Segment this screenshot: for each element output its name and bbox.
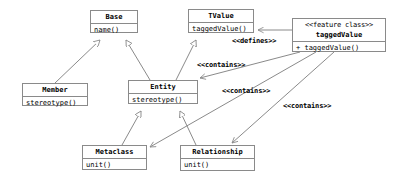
class-header-taggedvalue: <<feature class>> taggedValue (293, 19, 385, 42)
edge-member-to-base (55, 40, 100, 83)
edge-label-contains-3: <<contains>> (283, 102, 331, 111)
class-box-metaclass[interactable]: Metaclass unit() (82, 145, 147, 170)
class-box-relationship[interactable]: Relationship unit() (180, 145, 255, 171)
class-name-relationship: Relationship (181, 146, 254, 159)
edge-entity-to-base (126, 40, 150, 80)
class-member-base-0: name() (91, 24, 137, 36)
class-box-tvalue[interactable]: TValue taggedValue() (188, 9, 254, 33)
uml-class-diagram: Base name() TValue taggedValue() <<featu… (0, 0, 393, 180)
class-box-entity[interactable]: Entity stereotype() (128, 80, 198, 104)
class-member-metaclass-0: unit() (83, 159, 146, 171)
edge-label-defines: <<defines>> (232, 37, 276, 46)
class-name-entity: Entity (129, 81, 197, 94)
class-member-member-0: stereotype() (23, 97, 87, 109)
class-member-entity-0: stereotype() (129, 94, 197, 106)
class-box-member[interactable]: Member stereotype() (22, 83, 88, 106)
edge-metaclass-to-entity (122, 111, 141, 145)
class-name-taggedvalue: taggedValue (316, 31, 362, 39)
edge-entity-to-tvalue (176, 40, 196, 80)
class-name-base: Base (91, 11, 137, 24)
class-box-taggedvalue-feature[interactable]: <<feature class>> taggedValue + taggedVa… (292, 18, 386, 52)
class-member-relationship-0: unit() (181, 159, 254, 171)
class-name-member: Member (23, 84, 87, 97)
class-name-metaclass: Metaclass (83, 146, 146, 159)
edge-label-contains-1: <<contains>> (197, 61, 245, 70)
edge-label-contains-2: <<contains>> (222, 87, 270, 96)
class-name-tvalue: TValue (189, 10, 253, 23)
class-member-taggedvalue-0: + taggedValue() (293, 42, 385, 54)
class-box-base[interactable]: Base name() (90, 10, 138, 33)
class-stereotype-taggedvalue: <<feature class>> (295, 20, 383, 30)
class-member-tvalue-0: taggedValue() (189, 23, 253, 35)
